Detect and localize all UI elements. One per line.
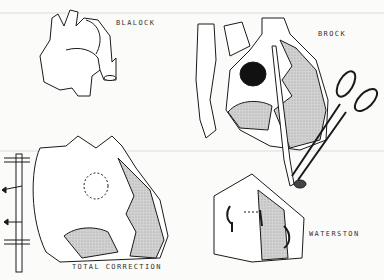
label-total-correction: TOTAL CORRECTION (72, 263, 162, 271)
illustration-canvas (0, 0, 384, 280)
total-correction-diagram (2, 136, 168, 272)
brock-diagram (196, 18, 381, 188)
label-blalock: BLALOCK (116, 19, 155, 27)
label-brock: BROCK (318, 30, 346, 38)
label-waterston: WATERSTON (309, 230, 360, 238)
waterston-diagram (214, 174, 304, 262)
blalock-diagram (40, 10, 116, 96)
